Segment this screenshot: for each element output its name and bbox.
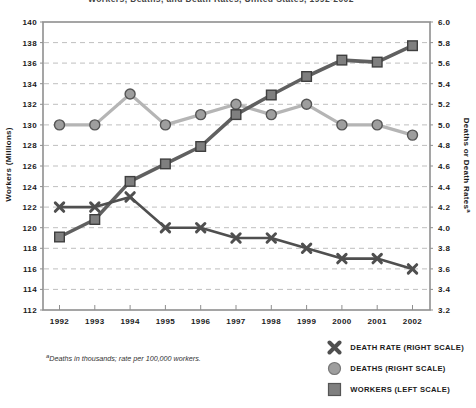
svg-text:5.0: 5.0 [438,121,450,130]
svg-text:140: 140 [22,18,37,27]
legend-label-death-rate: DEATH RATE (RIGHT SCALE) [350,343,464,352]
svg-text:1997: 1997 [226,317,246,326]
chart-figure: Workers, Deaths, and Death Rates, United… [0,0,476,408]
svg-text:122: 122 [22,203,37,212]
svg-text:2002: 2002 [403,317,423,326]
svg-text:1996: 1996 [191,317,211,326]
svg-text:2000: 2000 [332,317,352,326]
svg-text:3.8: 3.8 [438,244,450,253]
chart-title-text: Workers, Deaths, and Death Rates, United… [88,0,476,4]
chart-canvas: 1121141161181201221241261281301321341361… [0,0,476,338]
svg-text:5.2: 5.2 [438,100,450,109]
footnote-text: Deaths in thousands; rate per 100,000 wo… [49,354,200,363]
svg-text:3.4: 3.4 [438,285,450,294]
svg-text:138: 138 [22,39,37,48]
svg-text:124: 124 [22,183,37,192]
left-axis-title: Workers (Millions) [4,105,13,225]
svg-text:6.0: 6.0 [438,18,450,27]
svg-text:1993: 1993 [85,317,105,326]
legend: DEATH RATE (RIGHT SCALE) DEATHS (RIGHT S… [327,340,464,397]
svg-text:4.4: 4.4 [438,183,450,192]
svg-text:120: 120 [22,224,37,233]
svg-text:112: 112 [23,306,37,315]
right-axis-superscript: a [466,209,472,213]
x-marker-icon [327,340,342,355]
svg-text:1998: 1998 [262,317,282,326]
svg-text:4.0: 4.0 [438,224,450,233]
legend-item-workers: WORKERS (LEFT SCALE) [327,382,464,397]
svg-text:130: 130 [22,121,37,130]
svg-text:128: 128 [22,141,37,150]
circle-marker-icon [327,361,342,376]
square-marker-icon [327,382,342,397]
svg-text:5.6: 5.6 [438,59,450,68]
legend-item-deaths: DEATHS (RIGHT SCALE) [327,361,464,376]
svg-text:118: 118 [23,244,37,253]
svg-text:5.4: 5.4 [438,80,450,89]
footnote: aDeaths in thousands; rate per 100,000 w… [46,353,201,363]
svg-text:1992: 1992 [50,317,70,326]
legend-item-death-rate: DEATH RATE (RIGHT SCALE) [327,340,464,355]
svg-text:136: 136 [22,59,37,68]
legend-label-deaths: DEATHS (RIGHT SCALE) [350,364,445,373]
svg-text:134: 134 [22,80,37,89]
svg-text:5.8: 5.8 [438,39,450,48]
svg-text:3.2: 3.2 [438,306,450,315]
clipped-chart-title: Workers, Deaths, and Death Rates, United… [88,0,476,6]
svg-text:116: 116 [23,265,37,274]
svg-text:3.6: 3.6 [438,265,450,274]
svg-text:4.6: 4.6 [438,162,450,171]
svg-text:132: 132 [22,100,37,109]
svg-text:1995: 1995 [156,317,176,326]
svg-text:114: 114 [23,285,37,294]
left-axis-title-text: Workers (Millions) [4,127,13,202]
svg-text:2001: 2001 [367,317,387,326]
right-axis-title-text: Deaths or Death Rates [462,118,471,210]
svg-text:1994: 1994 [120,317,140,326]
svg-text:4.8: 4.8 [438,141,450,150]
svg-text:4.2: 4.2 [438,203,450,212]
legend-label-workers: WORKERS (LEFT SCALE) [350,385,450,394]
svg-text:126: 126 [22,162,37,171]
svg-text:1999: 1999 [297,317,317,326]
right-axis-title: Deaths or Death Ratesa [462,110,473,220]
